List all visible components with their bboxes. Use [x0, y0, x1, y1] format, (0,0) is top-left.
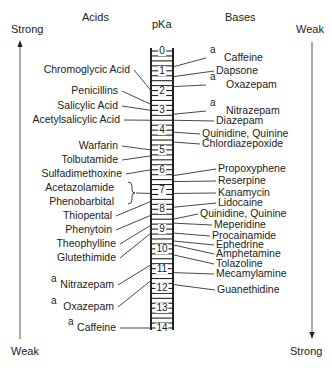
acid-label: Salicylic Acid	[57, 100, 118, 111]
footnote-marker: a	[210, 71, 216, 82]
footnote-marker: a	[68, 316, 74, 327]
pka-tick-12: 12	[155, 283, 168, 293]
footnote-marker: a	[51, 273, 57, 284]
brace	[128, 182, 135, 204]
pka-tick-4: 4	[158, 125, 166, 135]
footnote-marker: a	[210, 97, 216, 108]
pka-tick-6: 6	[158, 165, 166, 175]
base-label: Guanethidine	[217, 284, 279, 295]
acid-label: Theophylline	[56, 238, 116, 249]
base-weak-label: Weak	[296, 23, 324, 35]
base-label: Mecamylamine	[216, 268, 287, 279]
acid-label: Acetazolamide	[45, 182, 114, 193]
acid-label: Phenobarbital	[49, 196, 114, 207]
pka-tick-11: 11	[156, 264, 168, 274]
acid-label: Oxazepam	[63, 301, 114, 312]
pka-tick-3: 3	[158, 105, 166, 115]
base-label: Dapsone	[216, 65, 258, 76]
pka-tick-14: 14	[155, 323, 168, 333]
acid-label: Caffeine	[77, 322, 116, 333]
pka-tick-8: 8	[158, 204, 166, 214]
arrow-down-icon	[310, 332, 315, 339]
footnote-marker: a	[210, 44, 216, 55]
arrow-up-icon	[18, 40, 23, 47]
acid-label: Acetylsalicylic Acid	[32, 114, 120, 125]
base-label: Chlordiazepoxide	[202, 138, 283, 149]
acid-label: Tolbutamide	[61, 154, 118, 165]
acid-label: Warfarin	[79, 140, 118, 151]
acid-label: Glutethimide	[57, 252, 116, 263]
bases-header: Bases	[225, 11, 256, 23]
base-label: Propoxyphene	[218, 163, 286, 174]
pka-header: pKa	[152, 18, 172, 30]
acids-header: Acids	[82, 11, 109, 23]
base-label: Diazepam	[216, 115, 263, 126]
acid-weak-label: Weak	[11, 345, 39, 357]
footnote-marker: a	[51, 295, 57, 306]
acid-label: Nitrazepam	[60, 279, 114, 290]
pka-tick-1: 1	[158, 66, 166, 76]
base-strong-label: Strong	[290, 345, 322, 357]
acid-label: Phenytoin	[65, 224, 112, 235]
base-label: Oxazepam	[226, 79, 277, 90]
acid-label: Penicillins	[71, 85, 118, 96]
pka-tick-2: 2	[158, 86, 166, 96]
acid-label: Sulfadimethoxine	[41, 168, 122, 179]
pka-tick-5: 5	[158, 145, 166, 155]
pka-tick-9: 9	[158, 224, 166, 234]
acid-strong-label: Strong	[11, 23, 43, 35]
base-label: Reserpine	[218, 175, 266, 186]
pka-tick-7: 7	[158, 185, 166, 195]
pka-tick-10: 10	[155, 244, 168, 254]
acid-label: Chromoglycic Acid	[44, 64, 130, 75]
pka-tick-0: 0	[158, 46, 166, 56]
pka-tick-13: 13	[155, 303, 168, 313]
acid-label: Thiopental	[63, 210, 112, 221]
base-label: Caffeine	[224, 52, 263, 63]
